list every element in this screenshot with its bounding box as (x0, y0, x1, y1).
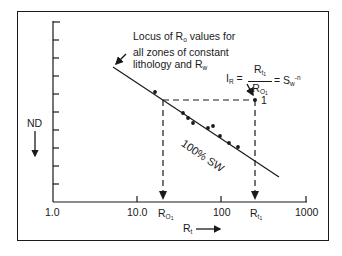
locus-annotation: Locus of Ro values for all zones of cons… (133, 30, 235, 74)
y-axis-label: ND (27, 117, 42, 129)
dashed-guides (163, 100, 255, 194)
locus-arrow (116, 54, 126, 64)
y-ticks (53, 22, 60, 184)
ir-fraction: Rt1 RO1 (248, 63, 272, 99)
rt1-label: Rt1 (250, 207, 262, 224)
x-tick-100: 100 (213, 206, 231, 218)
ro1-arrowhead (159, 191, 167, 200)
ro1-label: RO1 (158, 207, 173, 224)
rt1-arrowhead (251, 191, 259, 200)
x-axis-label: Rt (183, 222, 192, 238)
sw-equation: = Sw-n (274, 72, 301, 90)
data-points (153, 90, 257, 149)
x-tick-10: 10.0 (127, 206, 147, 218)
x-tick-1: 1.0 (45, 206, 60, 218)
ir-label: IR = (226, 72, 243, 88)
x-tick-1000: 1000 (295, 206, 318, 218)
point-one-label: 1 (261, 94, 267, 106)
